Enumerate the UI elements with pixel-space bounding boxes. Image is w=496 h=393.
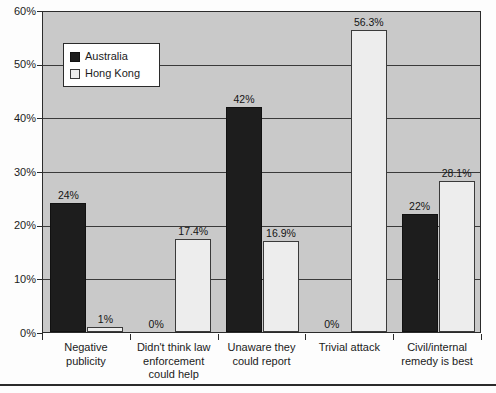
y-axis: 60% 50% 40% 30% 20% 10% 0% xyxy=(0,0,38,393)
bar-value-label: 17.4% xyxy=(165,226,221,237)
x-axis-category-labels: NegativepublicityDidn't think lawenforce… xyxy=(42,341,481,387)
category-label-line: Civil/internal xyxy=(393,341,481,355)
black-swatch-icon xyxy=(70,52,80,62)
y-axis-tick xyxy=(37,65,43,66)
y-axis-tick-label: 60% xyxy=(0,6,36,17)
x-axis-tick xyxy=(481,334,482,340)
x-axis-category-label: Didn't think lawenforcementcould help xyxy=(130,341,218,382)
bar-value-label: 16.9% xyxy=(253,228,309,239)
footer-divider xyxy=(0,384,496,386)
bar-hong-kong xyxy=(439,181,475,332)
bar-value-label: 28.1% xyxy=(429,168,485,179)
category-label-line: Didn't think law xyxy=(130,341,218,355)
y-axis-tick xyxy=(37,279,43,280)
category-label-line: Trivial attack xyxy=(305,341,393,355)
category-label-line: Negative xyxy=(42,341,130,355)
bar-value-label: 1% xyxy=(77,314,133,325)
x-axis-category-label: Civil/internalremedy is best xyxy=(393,341,481,368)
category-label-line: remedy is best xyxy=(393,355,481,369)
x-axis-tick xyxy=(42,334,43,340)
x-axis-tick xyxy=(130,334,131,340)
x-axis-category-label: Negativepublicity xyxy=(42,341,130,368)
bar-value-label: 24% xyxy=(40,190,96,201)
bar-hong-kong xyxy=(175,239,211,332)
y-axis-tick xyxy=(37,11,43,12)
x-axis-category-label: Unaware theycould report xyxy=(218,341,306,368)
legend-label: Hong Kong xyxy=(85,68,140,79)
bar-hong-kong xyxy=(351,30,387,332)
x-axis-category-label: Trivial attack xyxy=(305,341,393,355)
legend: Australia Hong Kong xyxy=(63,43,160,87)
y-axis-tick-label: 50% xyxy=(0,59,36,70)
category-label-line: could report xyxy=(218,355,306,369)
y-axis-tick-label: 20% xyxy=(0,220,36,231)
x-axis-tick xyxy=(393,334,394,340)
y-axis-tick-label: 0% xyxy=(0,328,36,339)
category-label-line: publicity xyxy=(42,355,130,369)
legend-label: Australia xyxy=(85,51,128,62)
white-swatch-icon xyxy=(70,69,80,79)
bar-australia xyxy=(226,107,262,332)
bar-value-label: 56.3% xyxy=(341,17,397,28)
legend-item-hong-kong: Hong Kong xyxy=(70,66,153,81)
bar-australia xyxy=(402,214,438,332)
bar-hong-kong xyxy=(263,241,299,332)
y-axis-tick-label: 10% xyxy=(0,274,36,285)
legend-item-australia: Australia xyxy=(70,49,153,64)
bar-value-label: 42% xyxy=(216,94,272,105)
category-label-line: enforcement xyxy=(130,355,218,369)
y-axis-tick xyxy=(37,172,43,173)
category-label-line: could help xyxy=(130,368,218,382)
y-axis-tick xyxy=(37,226,43,227)
bar-hong-kong xyxy=(87,327,123,332)
y-axis-tick xyxy=(37,118,43,119)
grouped-bar-chart: 60% 50% 40% 30% 20% 10% 0% 24%1%0%17.4%4… xyxy=(0,0,496,393)
x-axis-tick xyxy=(218,334,219,340)
y-axis-tick-label: 40% xyxy=(0,113,36,124)
category-label-line: Unaware they xyxy=(218,341,306,355)
x-axis-tick xyxy=(305,334,306,340)
y-axis-tick-label: 30% xyxy=(0,167,36,178)
